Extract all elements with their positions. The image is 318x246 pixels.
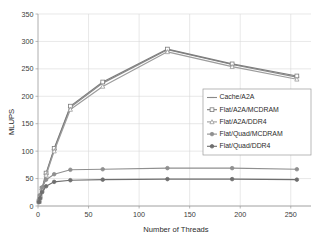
data-point-marker [69, 168, 73, 172]
data-point-marker [166, 177, 170, 181]
y-tick-label: 300 [22, 37, 34, 46]
legend-label: Flat/A2A/MCDRAM [220, 106, 280, 113]
data-point-marker [230, 166, 234, 170]
data-point-marker [40, 190, 44, 194]
legend-label: Flat/Quad/DDR4 [220, 142, 271, 150]
x-tick-label: 200 [234, 210, 246, 219]
y-tick-label: 150 [22, 119, 34, 128]
data-point-marker [101, 178, 105, 182]
y-tick-label: 100 [22, 147, 34, 156]
y-axis-tick-labels: 050100150200250300350 [22, 10, 34, 211]
x-axis-tick-labels: 050100150200250 [36, 210, 297, 219]
legend-label: Cache/A2A [220, 93, 255, 100]
data-point-marker [210, 132, 214, 136]
data-point-marker [52, 172, 56, 176]
y-axis-title: MLUPS [7, 109, 16, 135]
y-tick-label: 250 [22, 64, 34, 73]
x-axis-title: Number of Threads [143, 225, 208, 234]
y-tick-label: 350 [22, 10, 34, 19]
x-tick-label: 100 [133, 210, 145, 219]
y-tick-label: 200 [22, 92, 34, 101]
data-point-marker [38, 197, 42, 201]
series-line-path [39, 168, 297, 200]
x-tick-label: 250 [285, 210, 297, 219]
series-flat-quad-mcdram [37, 166, 298, 202]
x-tick-label: 50 [85, 210, 93, 219]
data-point-marker [210, 145, 214, 149]
data-point-marker [166, 166, 170, 170]
chart-legend: Cache/A2AFlat/A2A/MCDRAMFlat/A2A/DDR4Fla… [203, 89, 311, 155]
data-point-marker [295, 167, 299, 171]
data-point-marker [69, 178, 73, 182]
legend-label: Flat/A2A/DDR4 [220, 118, 267, 125]
x-tick-label: 150 [184, 210, 196, 219]
y-tick-label: 50 [26, 174, 34, 183]
series-flat-quad-ddr4 [37, 177, 298, 204]
y-tick-label: 0 [30, 202, 34, 211]
data-point-marker [44, 178, 48, 182]
data-point-marker [295, 178, 299, 182]
data-point-marker [101, 167, 105, 171]
data-point-marker [230, 177, 234, 181]
line-chart: 050100150200250300350 050100150200250 Ca… [0, 0, 318, 246]
chart-container: 050100150200250300350 050100150200250 Ca… [0, 0, 318, 246]
series-line-path [39, 179, 297, 202]
x-tick-label: 0 [36, 210, 40, 219]
data-point-marker [37, 200, 41, 204]
legend-label: Flat/Quad/MCDRAM [220, 130, 283, 138]
data-point-marker [210, 108, 214, 112]
data-point-marker [40, 186, 44, 190]
data-point-marker [52, 180, 56, 184]
data-point-marker [44, 184, 48, 188]
